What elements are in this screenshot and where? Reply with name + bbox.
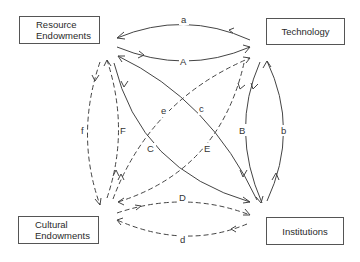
node-resource-endowments: Resource Endowments: [19, 16, 100, 44]
edge-label-e: e: [161, 105, 166, 116]
edge-d: d: [117, 218, 247, 246]
edge-c: c: [118, 56, 257, 200]
node-resource-endowments-line1: Resource: [36, 19, 99, 30]
node-cultural-endowments-line2: Endowments: [35, 230, 98, 241]
edge-A: A: [117, 45, 250, 68]
edge-label-E: E: [204, 143, 210, 154]
node-institutions: Institutions: [266, 217, 344, 245]
edge-label-c: c: [199, 103, 204, 114]
edge-label-b: b: [281, 125, 286, 136]
edge-label-F: F: [120, 125, 126, 136]
edge-label-d: d: [180, 234, 185, 245]
edge-a: a: [117, 14, 250, 40]
node-cultural-endowments-line1: Cultural: [35, 219, 98, 230]
edge-label-f: f: [81, 125, 84, 136]
node-cultural-endowments: Cultural Endowments: [18, 216, 99, 244]
edge-C: C: [114, 63, 250, 203]
node-technology: Technology: [266, 18, 345, 45]
edge-label-B: B: [239, 125, 245, 136]
edge-F: F: [104, 60, 128, 198]
node-institutions-label: Institutions: [282, 226, 327, 237]
edge-label-C: C: [147, 143, 154, 154]
edge-e: e: [113, 57, 250, 199]
edge-B: B: [238, 62, 263, 203]
edge-label-a: a: [181, 14, 187, 25]
edge-label-A: A: [180, 56, 187, 67]
edge-label-D: D: [179, 192, 186, 203]
edge-E: E: [118, 63, 245, 205]
node-resource-endowments-line2: Endowments: [36, 30, 99, 41]
diagram-canvas: a A b B: [0, 0, 360, 262]
node-technology-label: Technology: [281, 26, 329, 37]
edge-b: b: [263, 61, 288, 201]
edge-f: f: [80, 62, 101, 205]
